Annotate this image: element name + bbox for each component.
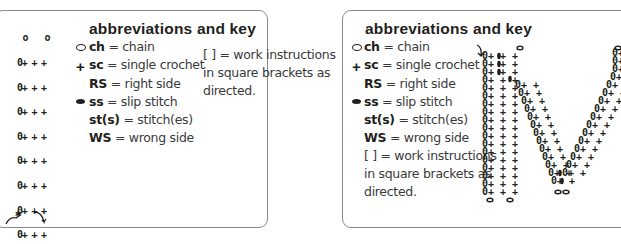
key-title: abbreviations and key — [365, 20, 532, 38]
svg-text:0+ + +: 0+ + + — [482, 186, 518, 197]
note-line: [ ] = work instructions — [203, 46, 336, 64]
key-abbr: ch — [89, 39, 105, 54]
ss-icon — [76, 99, 85, 104]
key-row-ws: WS = wrong side — [89, 130, 194, 145]
chart-row: o o — [17, 34, 94, 42]
key-abbr: ss — [364, 94, 378, 109]
key-meaning: = wrong side — [115, 130, 194, 145]
key-abbr: WS — [89, 130, 111, 145]
chart-row: 0+ + + — [17, 133, 94, 141]
ch-icon — [76, 44, 86, 51]
key-meaning: = single crochet — [107, 57, 204, 72]
key-row-sts: st(s) = stitch(es) — [89, 112, 193, 127]
note-line: [ ] = work instructions — [364, 147, 497, 165]
key-row-rs: RS = right side — [364, 76, 456, 91]
sc-icon: + — [352, 62, 361, 72]
key-meaning: = stitch(es) — [123, 112, 192, 127]
key-row-sc: sc = single crochet — [89, 57, 204, 72]
chart-row: 0+ + + — [17, 182, 94, 190]
key-meaning: = wrong side — [390, 130, 469, 145]
key-abbr: RS — [89, 76, 107, 91]
key-row-rs: RS = right side — [89, 76, 181, 91]
key-meaning: = chain — [383, 39, 429, 54]
sc-icon: + — [76, 62, 85, 72]
key-abbr: st(s) — [89, 112, 120, 127]
key-meaning: = single crochet — [382, 57, 479, 72]
key-row-ch: ch = chain — [89, 39, 155, 54]
key-title: abbreviations and key — [89, 20, 256, 38]
chart-row: 0+ + + — [17, 157, 94, 165]
key-row-ss: ss = slip stitch — [89, 94, 177, 109]
chart-row: 0+ + + — [17, 231, 94, 239]
ss-icon — [352, 99, 361, 104]
key-meaning: = stitch(es) — [398, 112, 467, 127]
crochet-chart-letter-n: 0+ + +0+ + +0+ + + 0+ + +0+ + +0+ + + 0+… — [480, 50, 621, 222]
chart-row: 0+ + + — [17, 108, 94, 116]
key-abbr: st(s) — [364, 112, 395, 127]
key-meaning: = right side — [111, 76, 181, 91]
key-abbr: RS — [364, 76, 382, 91]
key-abbr: sc — [89, 57, 103, 72]
key-meaning: = slip stitch — [382, 94, 453, 109]
key-meaning: = slip stitch — [107, 94, 178, 109]
chart-row: 0+ + + — [17, 84, 94, 92]
note-line: directed. — [364, 183, 497, 201]
svg-text:0+: 0+ — [612, 47, 621, 58]
key-abbr: WS — [364, 130, 386, 145]
brackets-note: [ ] = work instructions in square bracke… — [364, 147, 497, 201]
start-arrow-icon — [4, 208, 54, 228]
note-line: directed. — [203, 82, 336, 100]
ch-icon — [352, 44, 362, 51]
note-line: in square brackets as — [203, 64, 336, 82]
key-row-ch: ch = chain — [364, 39, 430, 54]
key-row-ss: ss = slip stitch — [364, 94, 452, 109]
note-line: in square brackets as — [364, 165, 497, 183]
key-abbr: ss — [89, 94, 103, 109]
key-row-sts: st(s) = stitch(es) — [364, 112, 468, 127]
key-abbr: ch — [364, 39, 380, 54]
key-meaning: = right side — [386, 76, 456, 91]
start-marker-icon: ✱ — [15, 210, 20, 218]
key-row-sc: sc = single crochet — [364, 57, 479, 72]
key-abbr: sc — [364, 57, 378, 72]
key-meaning: = chain — [108, 39, 154, 54]
key-row-ws: WS = wrong side — [364, 130, 469, 145]
brackets-note: [ ] = work instructions in square bracke… — [203, 46, 336, 100]
